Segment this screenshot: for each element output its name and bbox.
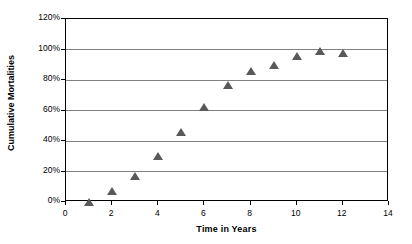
gridline — [66, 110, 387, 111]
chart-container: Cumulative Mortalities 0%20%40%60%80%100… — [0, 0, 412, 244]
y-tick-label: 120% — [22, 12, 60, 22]
gridline — [66, 171, 387, 172]
data-point-marker — [107, 187, 117, 195]
x-tick-mark — [250, 201, 251, 205]
x-tick-label: 4 — [142, 208, 172, 218]
x-axis-title-wrapper: Time in Years — [65, 224, 388, 238]
data-point-marker — [223, 81, 233, 89]
y-tick-label: 0% — [22, 195, 60, 205]
data-point-marker — [199, 103, 209, 111]
y-tick-label: 100% — [22, 43, 60, 53]
y-tick-label: 80% — [22, 73, 60, 83]
x-axis-title: Time in Years — [196, 224, 256, 234]
data-point-marker — [153, 152, 163, 160]
data-point-marker — [315, 47, 325, 55]
x-tick-label: 0 — [50, 208, 80, 218]
x-tick-mark — [296, 201, 297, 205]
y-axis-title: Cumulative Mortalities — [6, 54, 16, 150]
y-tick-label: 60% — [22, 104, 60, 114]
y-axis-title-wrapper: Cumulative Mortalities — [0, 0, 22, 205]
y-tick-label: 40% — [22, 134, 60, 144]
data-point-marker — [176, 128, 186, 136]
plot-area — [65, 18, 388, 201]
data-point-marker — [338, 49, 348, 57]
x-tick-mark — [388, 201, 389, 205]
data-point-marker — [84, 198, 94, 206]
data-point-marker — [269, 61, 279, 69]
x-tick-label: 12 — [327, 208, 357, 218]
gridline — [66, 141, 387, 142]
x-tick-mark — [157, 201, 158, 205]
x-tick-mark — [203, 201, 204, 205]
x-tick-label: 6 — [188, 208, 218, 218]
x-tick-mark — [342, 201, 343, 205]
y-tick-label: 20% — [22, 165, 60, 175]
x-tick-label: 8 — [235, 208, 265, 218]
x-tick-label: 10 — [281, 208, 311, 218]
data-point-marker — [246, 67, 256, 75]
x-tick-label: 14 — [373, 208, 403, 218]
data-point-marker — [130, 172, 140, 180]
x-tick-mark — [111, 201, 112, 205]
x-tick-label: 2 — [96, 208, 126, 218]
x-tick-mark — [65, 201, 66, 205]
data-point-marker — [292, 52, 302, 60]
